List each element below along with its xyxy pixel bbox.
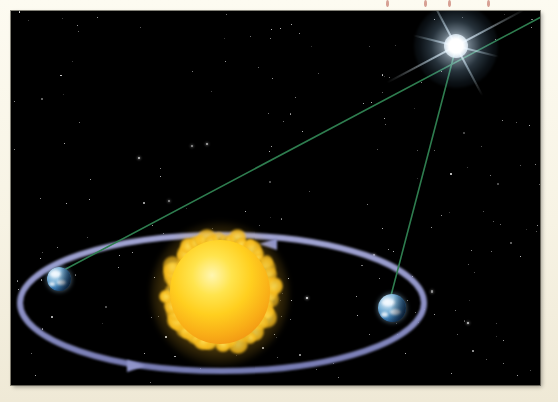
- earth-left: [47, 267, 71, 291]
- earth-right: [378, 294, 406, 322]
- ink-bleed-mark: [424, 0, 427, 7]
- earth-terminator: [47, 267, 71, 291]
- stellar-parallax-figure: Stellar parallax: Earth's orbit around t…: [0, 0, 558, 402]
- ink-bleed-mark: [487, 0, 490, 7]
- astronomy-photo-plate: [11, 11, 540, 385]
- ink-bleed-mark: [448, 0, 451, 7]
- ink-bleed-mark: [386, 0, 389, 7]
- star-core: [444, 34, 468, 58]
- earth-terminator: [378, 294, 406, 322]
- sun: [170, 240, 270, 344]
